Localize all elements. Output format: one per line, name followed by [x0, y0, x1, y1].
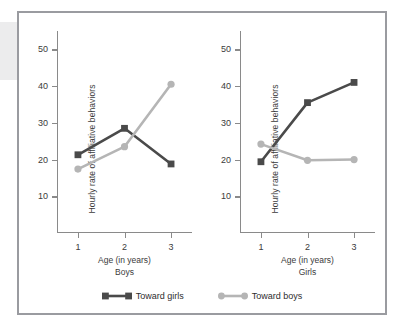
y-axis-tick [52, 160, 58, 161]
y-axis-tick [52, 196, 58, 197]
chart-panel-girls: Hourly rate of affiliative behaviors 102… [202, 13, 385, 285]
y-axis-tick [235, 160, 241, 161]
x-axis-tick [308, 232, 309, 238]
y-axis-tick [235, 86, 241, 87]
legend-marker-square-icon [102, 291, 132, 301]
y-axis-tick [52, 49, 58, 50]
panel-group-label-girls: Girls [240, 267, 375, 277]
data-point-marker [168, 161, 175, 168]
x-axis-tick-label: 3 [169, 242, 174, 252]
plot-area-boys: 1020304050123 [57, 31, 192, 233]
data-point-marker [304, 157, 311, 164]
series-layer-girls [240, 31, 375, 233]
data-point-marker [350, 156, 357, 163]
panel-group-label-boys: Boys [57, 267, 192, 277]
x-axis-tick [125, 232, 126, 238]
x-axis-label: Age (in years) [57, 255, 192, 265]
x-axis-tick [78, 232, 79, 238]
x-axis-tick [171, 232, 172, 238]
x-axis-tick-label: 2 [122, 242, 127, 252]
y-axis-tick [235, 123, 241, 124]
y-axis-tick [52, 86, 58, 87]
data-point-marker [121, 143, 128, 150]
legend-marker-circle-icon [218, 291, 248, 301]
data-point-marker [121, 125, 128, 132]
y-axis-tick [235, 196, 241, 197]
y-axis-tick-label: 30 [38, 118, 48, 128]
y-axis-tick-label: 50 [38, 44, 48, 54]
data-point-marker [258, 158, 265, 165]
chart-panels: Hourly rate of affiliative behaviors 102… [19, 13, 385, 285]
x-axis-tick [261, 232, 262, 238]
y-axis-tick-label: 10 [221, 191, 231, 201]
x-axis-tick-label: 2 [305, 242, 310, 252]
y-axis-tick-label: 20 [38, 155, 48, 165]
x-axis-tick-label: 3 [352, 242, 357, 252]
x-axis-tick-label: 1 [75, 242, 80, 252]
chart-legend: Toward girls Toward boys [19, 291, 385, 301]
data-point-marker [257, 141, 264, 148]
figure-frame: Hourly rate of affiliative behaviors 102… [17, 11, 387, 315]
y-axis-tick-label: 40 [221, 81, 231, 91]
y-axis-tick-label: 30 [221, 118, 231, 128]
chart-panel-boys: Hourly rate of affiliative behaviors 102… [19, 13, 202, 285]
legend-item-toward-boys: Toward boys [218, 291, 303, 301]
data-point-marker [75, 151, 82, 158]
data-point-marker [304, 99, 311, 106]
y-axis-tick-label: 20 [221, 155, 231, 165]
legend-label: Toward boys [252, 291, 303, 301]
data-point-marker [167, 81, 174, 88]
y-axis-tick-label: 40 [38, 81, 48, 91]
data-series-toward-girls [258, 79, 358, 165]
x-axis-tick [354, 232, 355, 238]
y-axis-tick [52, 123, 58, 124]
plot-area-girls: 1020304050123 [240, 31, 375, 233]
x-axis-label: Age (in years) [240, 255, 375, 265]
y-axis-tick-label: 50 [221, 44, 231, 54]
legend-item-toward-girls: Toward girls [102, 291, 184, 301]
x-axis-tick-label: 1 [258, 242, 263, 252]
data-point-marker [351, 79, 358, 86]
series-layer-boys [57, 31, 192, 233]
data-series-toward-boys [257, 141, 357, 164]
legend-label: Toward girls [136, 291, 184, 301]
data-point-marker [74, 165, 81, 172]
y-axis-tick [235, 49, 241, 50]
y-axis-tick-label: 10 [38, 191, 48, 201]
